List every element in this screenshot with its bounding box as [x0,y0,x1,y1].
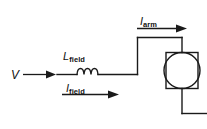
label-field-current: Ifield [66,79,85,95]
label-armature-current: Iarm [140,12,157,28]
label-source-voltage: V [11,66,19,82]
label-armature-current-subscript: arm [143,20,157,29]
label-field-inductance-subscript: field [69,55,85,64]
circuit-diagram: V Lfield Ifield Iarm [0,0,207,129]
label-field-inductance: Lfield [63,47,85,63]
source-current-arrow-head [46,71,56,79]
label-field-current-subscript: field [69,87,85,96]
field-current-arrow-head [108,91,119,99]
label-source-voltage-symbol: V [11,68,19,82]
circuit-schematic-svg [0,0,207,129]
motor-armature-circle [164,53,200,89]
field-inductor-coil [77,69,98,75]
armature-current-arrow-head [176,25,187,33]
motor-brush-box [166,53,198,89]
